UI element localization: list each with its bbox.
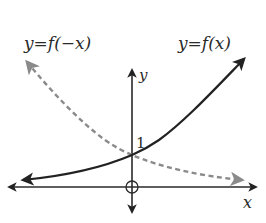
curve-f-of-x [23,59,244,180]
curve-f-of-negative-x [27,62,242,180]
function-reflection-graph: y=f(−x) y=f(x) y x 1 [0,0,266,223]
x-axis-label: x [243,195,252,211]
label-f-of-negative-x: y=f(−x) [24,35,91,52]
y-intercept-label: 1 [136,136,146,151]
label-f-of-x: y=f(x) [178,35,231,52]
y-axis-label: y [139,68,147,83]
